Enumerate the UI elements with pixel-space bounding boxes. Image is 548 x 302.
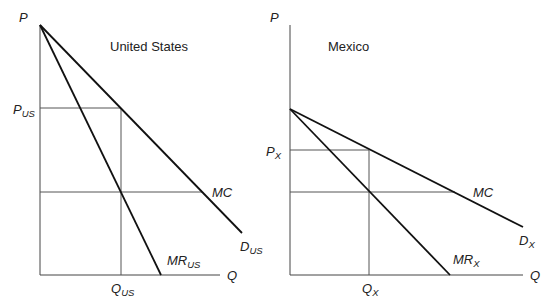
us-mr-curve	[40, 25, 161, 275]
mexico-quantity-label: QX	[362, 281, 379, 298]
mexico-y-axis-label: P	[270, 10, 279, 25]
mexico-price-label: PX	[266, 144, 282, 161]
us-mr-label: MRUS	[167, 253, 201, 270]
monopoly-price-discrimination-diagram: P United States PUS MC DUS MRUS Q QUS P …	[0, 0, 548, 302]
us-price-label: PUS	[13, 102, 36, 119]
mexico-panel-title: Mexico	[328, 39, 369, 54]
us-y-axis-label: P	[19, 10, 28, 25]
mexico-mr-label: MRX	[453, 252, 480, 269]
us-demand-label: DUS	[240, 239, 263, 256]
mexico-demand-curve	[290, 109, 523, 227]
mexico-panel: P Mexico PX MC DX MRX Q QX	[266, 10, 540, 298]
us-panel: P United States PUS MC DUS MRUS Q QUS	[13, 10, 263, 298]
mexico-x-axis-label: Q	[530, 268, 540, 283]
us-panel-title: United States	[110, 39, 189, 54]
us-demand-curve	[40, 25, 242, 233]
us-x-axis-label: Q	[227, 268, 237, 283]
us-quantity-label: QUS	[111, 281, 135, 298]
mexico-demand-label: DX	[519, 233, 535, 250]
us-mc-label: MC	[212, 185, 233, 200]
mexico-mc-label: MC	[473, 185, 494, 200]
